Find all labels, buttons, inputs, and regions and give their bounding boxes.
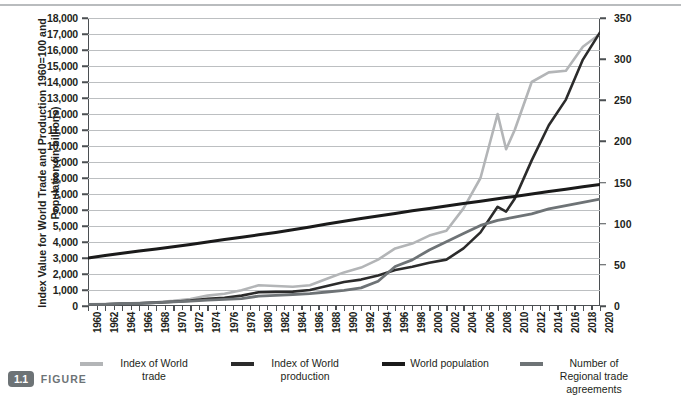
x-axis-tick xyxy=(139,306,140,311)
x-axis-tick xyxy=(190,306,191,311)
x-axis-tick xyxy=(207,306,208,311)
left-axis-tick-label: 5,000 xyxy=(53,220,78,232)
x-axis-tick-label: 2000 xyxy=(433,312,444,333)
x-axis-minor-tick xyxy=(387,306,388,310)
x-axis-tick-label: 1962 xyxy=(109,312,120,333)
left-axis-tick-label: 11,000 xyxy=(48,124,78,136)
left-axis-tick-label: 4,000 xyxy=(53,236,78,248)
x-axis-tick xyxy=(361,306,362,311)
x-axis-tick xyxy=(242,306,243,311)
x-axis-minor-tick xyxy=(404,306,405,310)
x-axis-tick-label: 1970 xyxy=(177,312,188,333)
plot-area xyxy=(88,18,600,306)
x-axis-tick xyxy=(566,306,567,311)
right-axis-tick-label: 100 xyxy=(614,218,632,230)
x-axis-tick xyxy=(549,306,550,311)
right-axis-tick xyxy=(600,182,606,184)
x-axis-tick xyxy=(395,306,396,311)
x-axis-tick-label: 2004 xyxy=(467,312,478,333)
x-axis-tick-label: 1980 xyxy=(263,312,274,333)
top-divider xyxy=(0,4,681,6)
chart-legend: Index of World tradeIndex of World produ… xyxy=(80,357,640,391)
x-axis-minor-tick xyxy=(489,306,490,310)
series-line xyxy=(88,32,600,304)
x-axis-minor-tick xyxy=(148,306,149,310)
legend-swatch xyxy=(520,362,543,366)
x-axis-tick-label: 1996 xyxy=(399,312,410,333)
series-lines xyxy=(88,18,600,306)
x-axis-tick xyxy=(156,306,157,311)
x-axis-tick-label: 1966 xyxy=(143,312,154,333)
legend-label: Number of Regional trade agreements xyxy=(548,357,640,396)
x-axis-tick-label: 2002 xyxy=(450,312,461,333)
x-axis-tick xyxy=(446,306,447,311)
left-axis-tick-label: 12,000 xyxy=(47,108,78,120)
legend-label: World population xyxy=(410,357,489,370)
figure-word: FIGURE xyxy=(41,373,87,385)
legend-item[interactable]: Index of World trade xyxy=(80,357,200,383)
x-axis-minor-tick xyxy=(199,306,200,310)
x-axis-tick xyxy=(88,306,89,311)
x-axis-tick-label: 2006 xyxy=(485,312,496,333)
legend-item[interactable]: Index of World production xyxy=(231,357,351,383)
x-axis-tick xyxy=(105,306,106,311)
x-axis-tick xyxy=(532,306,533,311)
x-axis-minor-tick xyxy=(591,306,592,310)
x-axis-tick xyxy=(327,306,328,311)
x-axis-minor-tick xyxy=(165,306,166,310)
left-axis-tick-label: 16,000 xyxy=(47,44,78,56)
x-axis-tick-label: 1994 xyxy=(382,312,393,333)
x-axis-tick xyxy=(276,306,277,311)
right-axis-tick xyxy=(600,58,606,60)
x-axis-labels: 1960196219641966196819701972197419761978… xyxy=(88,306,600,356)
left-axis-tick-label: 2,000 xyxy=(53,268,78,280)
x-axis-tick-label: 1998 xyxy=(416,312,427,333)
x-axis-minor-tick xyxy=(574,306,575,310)
x-axis-tick xyxy=(498,306,499,311)
x-axis-tick-label: 2010 xyxy=(519,312,530,333)
legend-item[interactable]: Number of Regional trade agreements xyxy=(520,357,640,396)
right-axis-tick xyxy=(600,100,606,102)
legend-swatch xyxy=(231,362,254,366)
left-axis-tick-label: 1,000 xyxy=(53,284,78,296)
x-axis-tick xyxy=(293,306,294,311)
x-axis-minor-tick xyxy=(233,306,234,310)
left-axis-tick-label: 9,000 xyxy=(53,156,78,168)
right-axis-tick-label: 350 xyxy=(614,12,632,24)
x-axis-tick xyxy=(378,306,379,311)
x-axis-tick xyxy=(225,306,226,311)
x-axis-tick-label: 1972 xyxy=(194,312,205,333)
x-axis-tick xyxy=(310,306,311,311)
right-axis-tick-label: 50 xyxy=(614,259,626,271)
x-axis-minor-tick xyxy=(506,306,507,310)
figure-root: Index Value for World Trade and Producti… xyxy=(0,0,681,400)
x-axis-minor-tick xyxy=(455,306,456,310)
left-axis-tick-label: 10,000 xyxy=(47,140,78,152)
x-axis-minor-tick xyxy=(267,306,268,310)
x-axis-minor-tick xyxy=(353,306,354,310)
x-axis-tick-label: 2008 xyxy=(502,312,513,333)
right-axis-tick-label: 0 xyxy=(614,300,620,312)
x-axis-tick-label: 1974 xyxy=(211,312,222,333)
x-axis-minor-tick xyxy=(284,306,285,310)
x-axis-minor-tick xyxy=(182,306,183,310)
x-axis-tick xyxy=(122,306,123,311)
x-axis-tick xyxy=(173,306,174,311)
x-axis-minor-tick xyxy=(557,306,558,310)
x-axis-tick-label: 1982 xyxy=(280,312,291,333)
left-axis-tick-label: 13,000 xyxy=(47,92,78,104)
series-line xyxy=(88,34,600,304)
x-axis-minor-tick xyxy=(131,306,132,310)
x-axis-minor-tick xyxy=(250,306,251,310)
x-axis-tick xyxy=(463,306,464,311)
legend-item[interactable]: World population xyxy=(382,357,489,370)
legend-swatch xyxy=(382,362,405,366)
x-axis-tick xyxy=(515,306,516,311)
x-axis-tick-label: 2016 xyxy=(570,312,581,333)
right-axis-tick-label: 200 xyxy=(614,135,632,147)
left-axis-tick-label: 6,000 xyxy=(53,204,78,216)
left-axis-tick-label: 8,000 xyxy=(53,172,78,184)
x-axis-minor-tick xyxy=(370,306,371,310)
x-axis-tick-label: 1964 xyxy=(126,312,137,333)
x-axis-tick-label: 1968 xyxy=(160,312,171,333)
